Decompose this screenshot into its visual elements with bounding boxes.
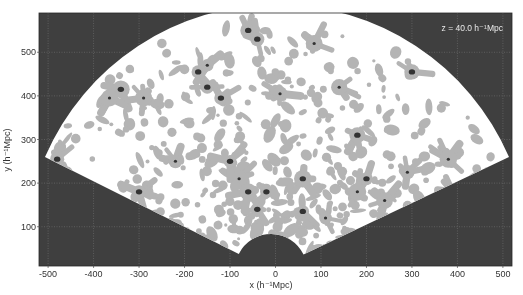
x-tick-label: 500 xyxy=(495,269,510,279)
x-tick-label: 200 xyxy=(359,269,374,279)
x-axis-ticks: -500-400-300-200-1000100200300400500 xyxy=(39,266,510,279)
x-axis-label: x (h⁻¹Mpc) xyxy=(250,280,293,290)
y-tick-label: 200 xyxy=(21,178,36,188)
x-tick-label: -300 xyxy=(130,269,148,279)
x-tick-label: -500 xyxy=(39,269,57,279)
y-axis-ticks: 100200300400500 xyxy=(21,47,39,231)
y-tick-label: 400 xyxy=(21,91,36,101)
redshift-annotation: z = 40.0 h⁻¹Mpc xyxy=(442,23,504,33)
y-axis-label: y (h⁻¹Mpc) xyxy=(2,128,12,171)
x-tick-label: 0 xyxy=(273,269,278,279)
x-tick-label: 100 xyxy=(313,269,328,279)
chart: -500-400-300-200-1000100200300400500 100… xyxy=(0,0,523,295)
y-tick-label: 300 xyxy=(21,135,36,145)
x-tick-label: -100 xyxy=(221,269,239,279)
y-tick-label: 100 xyxy=(21,222,36,232)
x-tick-label: -400 xyxy=(85,269,103,279)
y-tick-label: 500 xyxy=(21,47,36,57)
x-tick-label: 400 xyxy=(450,269,465,279)
x-tick-label: -200 xyxy=(176,269,194,279)
x-tick-label: 300 xyxy=(404,269,419,279)
